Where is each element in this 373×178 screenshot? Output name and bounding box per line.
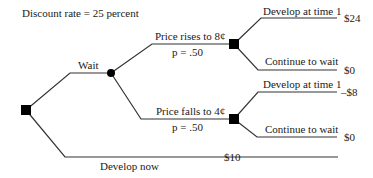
fall-develop-label: Develop at time 1: [263, 78, 342, 90]
develop-now-label: Develop now: [100, 160, 159, 172]
wait-branch-line: [26, 73, 111, 110]
rise-develop-payoff: $24: [344, 12, 361, 24]
fall-continue-label: Continue to wait: [265, 123, 338, 135]
price-falls-probability: p = .50: [172, 121, 203, 133]
rise-develop-branch-line: [234, 18, 337, 44]
decision-tree-diagram: Discount rate = 25 percent Wait Price ri…: [0, 0, 373, 178]
rise-continue-payoff: $0: [344, 64, 356, 76]
discount-rate-label: Discount rate = 25 percent: [22, 7, 139, 19]
wait-label: Wait: [78, 59, 99, 71]
price-rises-decision-node: [229, 39, 239, 49]
price-rises-probability: p = .50: [172, 46, 203, 58]
price-falls-label: Price falls to 4¢: [156, 105, 225, 117]
fall-develop-branch-line: [234, 92, 337, 119]
wait-chance-node: [107, 69, 115, 77]
rise-continue-label: Continue to wait: [265, 55, 338, 67]
fall-develop-payoff: –$8: [340, 86, 358, 98]
rise-develop-label: Develop at time 1: [263, 5, 342, 17]
price-rises-label: Price rises to 8¢: [155, 30, 226, 42]
develop-now-payoff: $10: [224, 151, 241, 163]
price-falls-decision-node: [229, 114, 239, 124]
fall-continue-payoff: $0: [344, 131, 356, 143]
root-decision-node: [21, 105, 31, 115]
